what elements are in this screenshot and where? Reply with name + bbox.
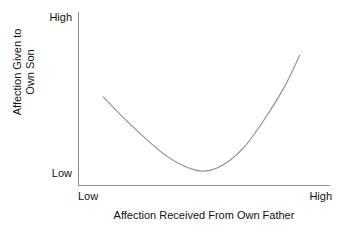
plot-area [0, 0, 342, 235]
chart-figure: High Low Low High Affection Given to Own… [0, 0, 342, 235]
data-series-curve [103, 55, 300, 171]
